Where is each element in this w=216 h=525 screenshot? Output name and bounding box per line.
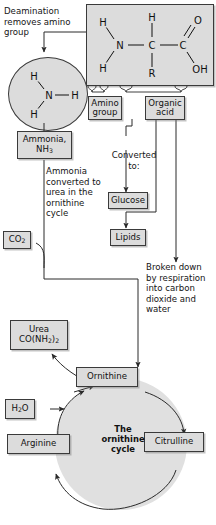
cycle-center-label-text: The ornithine cycle	[101, 424, 144, 454]
glucose-box: Glucose	[108, 192, 148, 209]
ammonia-box: Ammonia,NH3	[17, 131, 72, 159]
co2-label: CO2	[9, 235, 26, 245]
lipids-box: Lipids	[110, 229, 146, 246]
deamination-caption: Deamination removes amino group	[4, 6, 84, 38]
water-box: H2O	[5, 399, 35, 419]
amino-group-box: Amino group	[88, 96, 122, 120]
cycle-center-label: The ornithine cycle	[94, 424, 152, 454]
urea-label: UreaCO(NH2)2	[19, 325, 59, 344]
ammonia-label: Ammonia,NH3	[23, 135, 67, 154]
arginine-box: Arginine	[7, 434, 70, 454]
co2-box: CO2	[3, 231, 31, 249]
ornithine-box: Ornithine	[76, 367, 138, 387]
ammonia-converted-caption: Ammonia converted to urea in the ornithi…	[46, 166, 108, 219]
citrulline-box: Citrulline	[144, 432, 204, 452]
deamination-ornithine-cycle-diagram: H H N C H R C O OH H H N H	[0, 0, 216, 525]
water-label: H2O	[11, 404, 28, 414]
organic-acid-box: Organic acid	[145, 96, 185, 120]
converted-to-caption: Converted to:	[106, 150, 162, 171]
broken-down-caption: Broken down by respiration into carbon d…	[146, 262, 212, 315]
urea-box: UreaCO(NH2)2	[10, 320, 68, 350]
